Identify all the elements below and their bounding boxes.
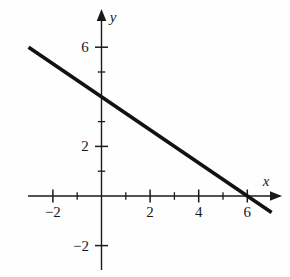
y-axis-arrow-icon <box>97 9 107 21</box>
x-tick-label-6: 6 <box>244 204 252 221</box>
y-tick-label-2: 2 <box>81 138 89 155</box>
x-tick-label-2: 2 <box>146 204 154 221</box>
coordinate-plane <box>0 0 290 277</box>
y-axis-name-label: y <box>110 9 117 26</box>
y-tick-label-6: 6 <box>81 39 89 56</box>
graph-figure: −2 2 4 6 6 2 −2 y x <box>0 0 290 277</box>
x-axis-arrow-icon <box>270 191 282 201</box>
x-axis-name-label: x <box>263 173 270 190</box>
x-tick-label-4: 4 <box>195 204 203 221</box>
x-tick-label-neg2: −2 <box>45 204 61 221</box>
plotted-line-series <box>29 47 272 212</box>
y-tick-label-neg2: −2 <box>73 237 89 254</box>
